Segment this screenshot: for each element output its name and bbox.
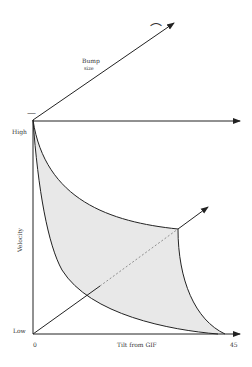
bump-size-axis: [33, 23, 174, 120]
tilt-velocity-diagram: ⌒ — Bump size High Low Velocity 0 Tilt f…: [0, 0, 252, 367]
x-min-label: 0: [33, 341, 37, 348]
high-label: High: [12, 128, 27, 136]
diagonal-solid: [33, 286, 100, 334]
shaded-region: [33, 120, 225, 334]
bump-size-label-1: Bump: [82, 57, 100, 65]
velocity-label: Velocity: [16, 227, 24, 253]
bump-size-label-2: size: [84, 65, 94, 71]
flat-bump-icon: —: [27, 108, 36, 118]
x-max-label: 45: [230, 341, 238, 348]
small-bump-icon: ⌒: [150, 23, 162, 37]
diagonal-arrow: [178, 207, 208, 229]
low-label: Low: [13, 327, 27, 334]
x-axis-title: Tilt from GIF: [117, 341, 157, 348]
